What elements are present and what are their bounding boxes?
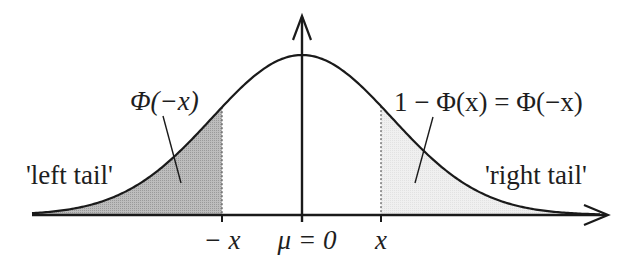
tick-label-mu: μ = 0	[277, 225, 337, 255]
right-area-label: 1 − Φ(x) = Φ(−x)	[394, 87, 583, 117]
left-area-label: Φ(−x)	[130, 86, 199, 116]
left-tail-label: 'left tail'	[26, 160, 113, 190]
normal-distribution-diagram: Φ(−x) 1 − Φ(x) = Φ(−x) 'left tail' 'righ…	[0, 0, 644, 271]
tick-label-pos-x: x	[374, 225, 387, 255]
tick-label-neg-x: − x	[204, 225, 241, 255]
y-axis	[293, 16, 311, 222]
bell-curve	[32, 55, 600, 214]
right-tail-label: 'right tail'	[485, 160, 587, 190]
